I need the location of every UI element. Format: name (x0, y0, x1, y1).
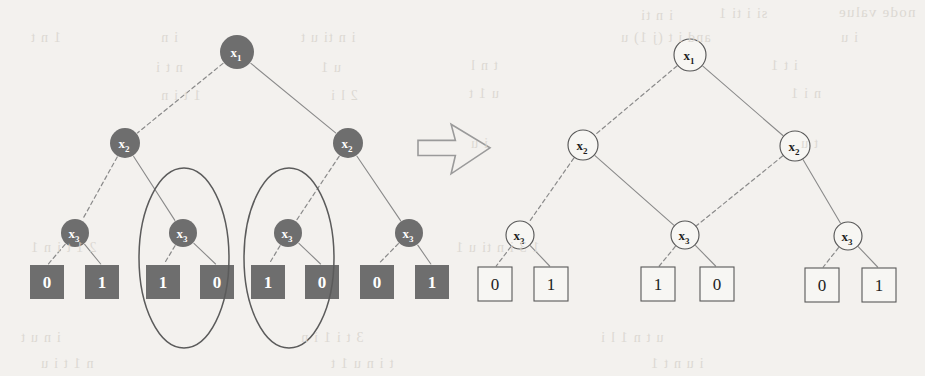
terminal-value: 0 (318, 273, 327, 292)
terminal-value: 0 (713, 275, 722, 294)
ghost-text-line: u 1 (320, 60, 341, 76)
ghost-text-line: 2 l i (330, 88, 358, 104)
edge-1-branch (299, 243, 321, 264)
terminal-value: 0 (491, 275, 500, 294)
ghost-text-line: i n u t (20, 330, 61, 346)
terminal-node: 1 (85, 265, 119, 299)
decision-node-x3: x3 (395, 219, 423, 247)
ghost-text-line: t n l (470, 58, 498, 74)
terminal-node: 1 (415, 265, 449, 299)
edge-1-branch (194, 243, 216, 264)
subtree-highlight-ellipse (244, 168, 334, 348)
ghost-text-line: n t i (155, 60, 183, 76)
left-tree-nodes: x1x2x2x3x3x3x3 (61, 35, 423, 247)
ghost-text-line: i u (840, 30, 858, 46)
terminal-value: 1 (159, 273, 168, 292)
terminal-value: 1 (98, 273, 107, 292)
edge-1-branch (858, 247, 877, 267)
ghost-text-line: i n ti (640, 8, 673, 24)
left-tree-leaves: 01101001 (30, 265, 449, 299)
edge-0-branch (529, 158, 574, 223)
ghost-text-line: i t 1 (770, 58, 798, 74)
ghost-text-line: n i 1 (790, 86, 821, 102)
ghost-text-line: i u (470, 136, 488, 152)
edge-0-branch (164, 246, 175, 264)
edge-1-branch (357, 156, 401, 220)
ghost-text-line: t i n u 1 t (330, 356, 393, 372)
terminal-node: 1 (641, 267, 675, 301)
terminal-value: 0 (213, 273, 222, 292)
ghost-text-line: 2 1 t i n 1 (30, 240, 96, 256)
right-tree-leaves: 011001 (478, 267, 896, 302)
bdd-reduction-diagram: 01101001 011001 x1x2x2x3x3x3x3 x1x2x2x3x… (0, 0, 925, 376)
terminal-value: 1 (428, 273, 437, 292)
ghost-text-line: node value (838, 4, 915, 21)
node-circle (220, 35, 254, 69)
terminal-node: 1 (251, 265, 285, 299)
edge-1-branch (703, 66, 783, 135)
edge-1-branch (418, 245, 431, 264)
terminal-node: 0 (805, 268, 839, 302)
decision-node-x2: x2 (568, 130, 598, 160)
left-tree-edges (48, 63, 431, 264)
decision-node-x1: x1 (220, 35, 254, 69)
decision-node-x3: x3 (169, 219, 197, 247)
ghost-text-line: and i t (j 1) u (620, 30, 711, 46)
ghost-text-line: n 1 t i u (40, 356, 94, 372)
ghost-text-line: i n ti u t (300, 30, 356, 46)
ghost-text-line: t u (800, 136, 818, 152)
decision-node-x2: x2 (333, 128, 363, 158)
edge-1-branch (696, 246, 716, 266)
edge-0-branch (697, 156, 783, 226)
ghost-text-line: 1 t i n (160, 88, 201, 104)
terminal-node: 0 (30, 265, 64, 299)
edge-0-branch (823, 248, 838, 267)
terminal-value: 0 (43, 273, 52, 292)
terminal-node: 1 (534, 267, 568, 301)
terminal-value: 1 (264, 273, 273, 292)
decision-node-x3: x3 (274, 219, 302, 247)
edge-0-branch (82, 157, 117, 220)
edge-0-branch (595, 66, 677, 135)
ghost-text-line: u 1 t (468, 86, 499, 102)
terminal-value: 0 (373, 273, 382, 292)
highlight-ellipses (139, 168, 334, 348)
terminal-value: 1 (654, 275, 663, 294)
edge-0-branch (378, 244, 398, 264)
terminal-node: 1 (862, 268, 896, 302)
edge-0-branch (269, 246, 280, 264)
terminal-value: 0 (818, 276, 827, 295)
ghost-text-line: 3 t i 1 i n (300, 330, 363, 346)
terminal-value: 1 (875, 276, 884, 295)
decision-node-x3: x3 (834, 222, 862, 250)
terminal-value: 1 (547, 275, 556, 294)
edge-0-branch (659, 246, 675, 266)
figure-canvas: node valuesi i ti 1i n tiand i t (j 1) u… (0, 0, 925, 376)
ghost-text-line: u t n 1 l i (600, 330, 663, 346)
ghost-text-line: i n (160, 30, 178, 46)
terminal-node: 0 (700, 267, 734, 301)
terminal-node: 0 (360, 265, 394, 299)
ghost-text-line: i u n t 1 (650, 356, 704, 372)
edge-1-branch (134, 156, 175, 220)
ghost-text-line: 1 3 i n ti u 1 (455, 240, 539, 256)
terminal-node: 0 (478, 267, 512, 301)
decision-node-x2: x2 (110, 128, 140, 158)
ghost-text-line: si i ti 1 (718, 6, 767, 22)
subtree-highlight-ellipse (139, 168, 229, 348)
terminal-node: 1 (146, 265, 180, 299)
edge-1-branch (595, 156, 674, 225)
ghost-text-line: 1 n t (30, 30, 61, 46)
decision-node-x3: x3 (671, 221, 699, 249)
edge-1-branch (803, 160, 840, 223)
